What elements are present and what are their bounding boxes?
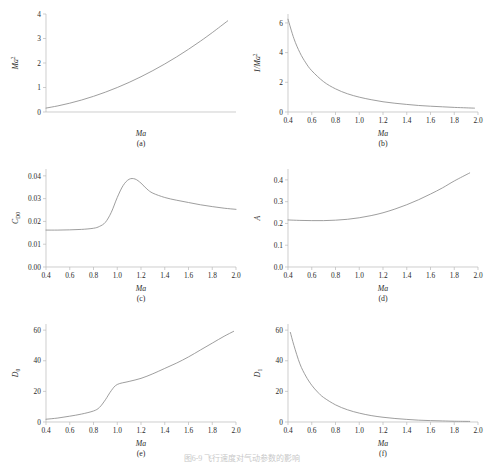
x-tick-label: 0.8 — [89, 271, 99, 280]
x-tick-label: 0.4 — [283, 426, 293, 435]
x-tick-label: 0.6 — [307, 116, 317, 125]
x-tick-label: 1.0 — [113, 271, 123, 280]
x-tick-label: 1.8 — [208, 271, 218, 280]
x-tick-label: 1.8 — [208, 426, 218, 435]
subplot-c: 0.000.010.020.030.040.40.60.81.01.21.41.… — [0, 155, 242, 310]
y-axis-ticks: 0.000.010.020.030.04 — [28, 172, 46, 272]
subplot-a: 01234Ma2Ma(a) — [0, 0, 242, 155]
x-tick-label: 0.8 — [331, 426, 341, 435]
y-tick-label: 3 — [37, 34, 41, 43]
y-tick-label: 0.03 — [28, 194, 41, 203]
x-axis-ticks: 0.40.60.81.01.21.41.61.82.0 — [41, 422, 241, 435]
y-tick-label: 6 — [279, 19, 283, 28]
subplot-e: 02040600.40.60.81.01.21.41.61.82.0D0Ma(e… — [0, 310, 242, 464]
x-tick-label: 1.8 — [450, 116, 460, 125]
x-tick-label: 0.8 — [331, 116, 341, 125]
x-tick-label: 2.0 — [231, 271, 241, 280]
y-tick-label: 0.01 — [28, 240, 41, 249]
x-tick-label: 1.4 — [160, 426, 170, 435]
y-tick-label: 20 — [34, 387, 42, 396]
y-tick-label: 1 — [37, 83, 41, 92]
x-tick-label: 0.4 — [283, 271, 293, 280]
x-tick-label: 0.8 — [331, 271, 341, 280]
x-tick-label: 2.0 — [473, 426, 483, 435]
y-axis-ticks: 0204060 — [276, 326, 288, 427]
x-tick-label: 0.4 — [41, 426, 51, 435]
x-tick-label: 1.2 — [378, 271, 388, 280]
x-tick-label: 1.0 — [355, 116, 365, 125]
y-tick-label: 0 — [37, 108, 41, 117]
x-tick-label: 0.8 — [89, 426, 99, 435]
x-axis-label: Ma — [135, 439, 146, 448]
x-tick-label: 1.6 — [426, 271, 436, 280]
chart-e: 02040600.40.60.81.01.21.41.61.82.0D0Ma(e… — [0, 310, 242, 464]
chart-a: 01234Ma2Ma(a) — [0, 0, 242, 155]
data-curve — [46, 178, 236, 230]
x-tick-label: 1.6 — [184, 271, 194, 280]
y-tick-label: 0.2 — [274, 219, 284, 228]
y-tick-label: 0.02 — [28, 217, 41, 226]
y-axis-ticks: 01234 — [37, 10, 46, 117]
y-tick-label: 60 — [34, 326, 42, 335]
y-tick-label: 2 — [279, 78, 283, 87]
x-tick-label: 0.4 — [283, 116, 293, 125]
data-curve — [288, 173, 470, 221]
x-tick-label: 1.2 — [378, 426, 388, 435]
axes — [288, 324, 478, 422]
data-curve — [290, 332, 469, 421]
x-axis-label: Ma — [377, 284, 388, 293]
y-tick-label: 0.1 — [274, 241, 284, 250]
x-axis-label: Ma — [377, 439, 388, 448]
y-tick-label: 0.0 — [274, 263, 284, 272]
x-axis-ticks: 0.40.60.81.01.21.41.61.82.0 — [283, 267, 483, 280]
y-axis-label: D1 — [253, 369, 263, 379]
y-tick-label: 40 — [34, 356, 42, 365]
chart-b: 02460.40.60.81.01.21.41.61.82.01/Ma2Ma(b… — [242, 0, 484, 155]
chart-d: 0.00.10.20.30.40.40.60.81.01.21.41.61.82… — [242, 155, 484, 310]
y-tick-label: 40 — [276, 356, 284, 365]
x-tick-label: 1.0 — [113, 426, 123, 435]
y-tick-label: 4 — [279, 48, 283, 57]
x-axis-label: Ma — [135, 284, 146, 293]
y-tick-label: 0.00 — [28, 263, 41, 272]
x-axis-ticks: 0.40.60.81.01.21.41.61.82.0 — [283, 112, 483, 125]
x-tick-label: 0.6 — [307, 271, 317, 280]
subplot-d: 0.00.10.20.30.40.40.60.81.01.21.41.61.82… — [242, 155, 484, 310]
x-tick-label: 1.6 — [426, 116, 436, 125]
y-tick-label: 2 — [37, 59, 41, 68]
x-tick-label: 0.6 — [307, 426, 317, 435]
x-tick-label: 1.6 — [426, 426, 436, 435]
x-tick-label: 1.0 — [355, 271, 365, 280]
x-tick-label: 2.0 — [473, 271, 483, 280]
subplot-f: 02040600.40.60.81.01.21.41.61.82.0D1Ma(f… — [242, 310, 484, 464]
x-tick-label: 1.4 — [402, 116, 412, 125]
panel-tag: (b) — [378, 139, 387, 148]
panel-tag: (a) — [137, 139, 146, 148]
y-axis-label: 1/Ma2 — [252, 53, 262, 72]
y-axis-ticks: 0204060 — [34, 326, 46, 427]
y-axis-label: A — [253, 215, 262, 221]
y-tick-label: 0.3 — [274, 197, 284, 206]
axes — [46, 324, 236, 422]
y-axis-label: D0 — [11, 369, 21, 379]
y-tick-label: 0.4 — [274, 176, 284, 185]
panel-tag: (c) — [137, 294, 146, 303]
y-tick-label: 4 — [37, 10, 41, 19]
y-axis-label: Ma2 — [10, 56, 20, 70]
x-tick-label: 1.2 — [136, 271, 146, 280]
x-tick-label: 2.0 — [231, 426, 241, 435]
axes — [46, 169, 236, 267]
y-tick-label: 60 — [276, 326, 284, 335]
y-axis-ticks: 0246 — [279, 19, 288, 117]
y-axis-label: CD0 — [11, 212, 21, 224]
x-tick-label: 2.0 — [473, 116, 483, 125]
x-tick-label: 0.6 — [65, 271, 75, 280]
x-tick-label: 1.6 — [184, 426, 194, 435]
x-axis-ticks: 0.40.60.81.01.21.41.61.82.0 — [283, 422, 483, 435]
y-tick-label: 20 — [276, 387, 284, 396]
figure-container: 01234Ma2Ma(a) 02460.40.60.81.01.21.41.61… — [0, 0, 484, 464]
data-curve — [288, 19, 474, 108]
x-tick-label: 1.0 — [355, 426, 365, 435]
x-axis-label: Ma — [135, 129, 146, 138]
x-tick-label: 1.4 — [160, 271, 170, 280]
